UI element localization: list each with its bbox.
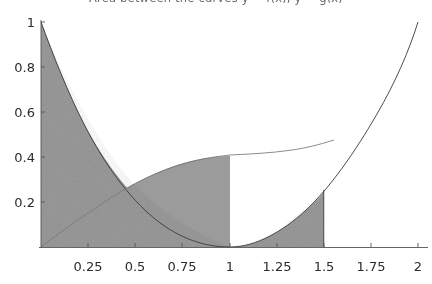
x-tick-label-1: 1 [226, 259, 234, 274]
shaded-area-group [41, 20, 324, 248]
y-tick-labels: 1 0.8 0.6 0.4 0.2 [14, 15, 35, 210]
y-tick-label-1: 1 [27, 15, 35, 30]
x-tick-label-0_75: 0.75 [168, 259, 197, 274]
x-tick-label-1_25: 1.25 [263, 259, 292, 274]
y-tick-label-0_6: 0.6 [14, 105, 35, 120]
x-tick-label-0_5: 0.5 [125, 259, 146, 274]
x-tick-label-1_75: 1.75 [357, 259, 386, 274]
x-tick-label-2: 2 [414, 259, 422, 274]
plot-canvas: 1 0.8 0.6 0.4 0.2 0.25 0.5 0.75 1 1.25 1… [0, 0, 432, 284]
y-tick-label-0_4: 0.4 [14, 150, 35, 165]
plot-figure: Area between the curves y = f(x), y = g(… [0, 0, 432, 284]
x-tick-label-1_5: 1.5 [314, 259, 335, 274]
x-tick-labels: 0.25 0.5 0.75 1 1.25 1.5 1.75 2 [74, 259, 423, 274]
y-tick-label-0_2: 0.2 [14, 195, 35, 210]
y-tick-label-0_8: 0.8 [14, 60, 35, 75]
x-tick-label-0_25: 0.25 [74, 259, 103, 274]
